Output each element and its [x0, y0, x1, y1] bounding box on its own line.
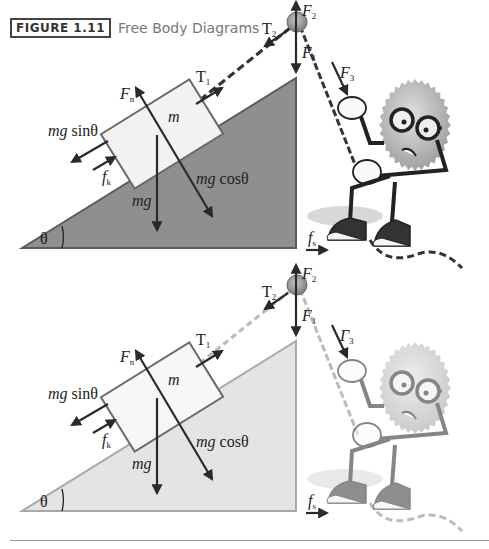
glasses-left-lens [391, 109, 413, 131]
force-f1-label-main: F [301, 44, 312, 61]
mascot-character [307, 342, 451, 509]
force-f1-label-main: F [301, 307, 312, 324]
force-f2-label-main: F [301, 265, 312, 282]
weight-perpendicular-label: mg cosθ [196, 433, 249, 451]
tension-t2-label-main: T [262, 283, 272, 300]
force-f3-label: F3 [339, 64, 355, 83]
free-body-diagram-bottom: θmF2F1T2T1Γ3Fnmg cosθmgmg sinθfkfs [22, 265, 462, 531]
force-f3-label: Γ3 [339, 327, 354, 346]
weight-parallel-label: mg sinθ [48, 385, 98, 403]
weight-label-main: mg [132, 455, 152, 473]
force-f1-label: F1 [301, 307, 316, 326]
static-friction-label-subscript: s [312, 501, 316, 511]
weight-parallel-label-symbol: mg [48, 122, 68, 140]
static-friction-label: fs [308, 492, 316, 511]
mass-label-main: m [168, 108, 180, 125]
static-friction-label: fs [308, 229, 316, 248]
normal-force-label-main: F [119, 85, 130, 102]
tension-t1-label-main: T [196, 68, 206, 85]
tension-t2-label-subscript: 2 [272, 292, 277, 302]
glove-upper [338, 360, 366, 382]
leg-front [392, 445, 395, 485]
leg-front [392, 182, 395, 222]
weight-label: mg [132, 192, 152, 210]
glove-upper [338, 97, 366, 119]
mass-label-main: m [168, 371, 180, 388]
tension-t2-label-main: T [262, 20, 272, 37]
force-f3-label-subscript: 3 [350, 73, 355, 83]
eye-left [402, 120, 407, 125]
eye-right [424, 391, 429, 396]
bottom-divider [10, 540, 489, 541]
tension-t1-label: T1 [196, 331, 210, 350]
weight-parallel-arrow [72, 404, 108, 425]
tension-t1-label-main: T [196, 331, 206, 348]
angle-theta-label: θ [40, 493, 48, 510]
normal-force-label: Fn [119, 85, 135, 104]
tension-t2-label: T2 [262, 283, 276, 302]
force-f1-label: F1 [301, 44, 316, 63]
force-f2-label-main: F [301, 2, 312, 19]
tension-t1-label-subscript: 1 [206, 77, 211, 87]
angle-theta-label-main: θ [40, 230, 48, 247]
mass-label: m [168, 371, 180, 388]
glasses-left-lens [391, 372, 413, 394]
glasses-right-lens [417, 380, 439, 402]
weight-parallel-label-function: sinθ [68, 385, 98, 402]
glasses-right-lens [417, 117, 439, 139]
force-f2-label: F2 [301, 2, 316, 21]
normal-force-label-subscript: n [130, 357, 135, 367]
weight-parallel-label-symbol: mg [48, 385, 68, 403]
normal-force-label-main: F [119, 348, 130, 365]
weight-parallel-arrow [72, 141, 108, 162]
weight-label-main: mg [132, 192, 152, 210]
normal-force-label: Fn [119, 348, 135, 367]
weight-label: mg [132, 455, 152, 473]
tension-t1-label-subscript: 1 [206, 340, 211, 350]
kinetic-friction-label-subscript: k [106, 440, 111, 450]
free-body-diagram-top: θmF2F1T2T1F3Fnmg cosθmgmg sinθfkfs [22, 2, 462, 268]
weight-parallel-label-function: sinθ [68, 122, 98, 139]
force-f1-label-subscript: 1 [312, 53, 317, 63]
weight-perpendicular-label-symbol: mg [196, 433, 216, 451]
mass-label: m [168, 108, 180, 125]
weight-perpendicular-label-function: cosθ [216, 170, 249, 187]
force-f2-label-subscript: 2 [312, 11, 317, 21]
force-f2-label: F2 [301, 265, 316, 284]
angle-theta-label: θ [40, 230, 48, 247]
tension-t1-label: T1 [196, 68, 210, 87]
static-friction-label-subscript: s [312, 238, 316, 248]
kinetic-friction-label: fk [102, 431, 111, 450]
diagram-canvas: θmF2F1T2T1F3Fnmg cosθmgmg sinθfkfs θmF2F… [0, 0, 489, 549]
weight-parallel-label: mg sinθ [48, 122, 98, 140]
mascot-character [307, 79, 451, 246]
weight-perpendicular-label: mg cosθ [196, 170, 249, 188]
weight-perpendicular-label-function: cosθ [216, 433, 249, 450]
angle-theta-label-main: θ [40, 493, 48, 510]
force-f3-label-main: F [339, 64, 350, 81]
eye-right [424, 128, 429, 133]
tension-t2-label-subscript: 2 [272, 29, 277, 39]
weight-perpendicular-label-symbol: mg [196, 170, 216, 188]
normal-force-label-subscript: n [130, 94, 135, 104]
force-f2-label-subscript: 2 [312, 274, 317, 284]
kinetic-friction-label: fk [102, 168, 111, 187]
kinetic-friction-label-subscript: k [106, 177, 111, 187]
tension-t2-label: T2 [262, 20, 276, 39]
force-f1-label-subscript: 1 [312, 316, 317, 326]
eye-left [402, 383, 407, 388]
force-f3-label-subscript: 3 [349, 336, 354, 346]
